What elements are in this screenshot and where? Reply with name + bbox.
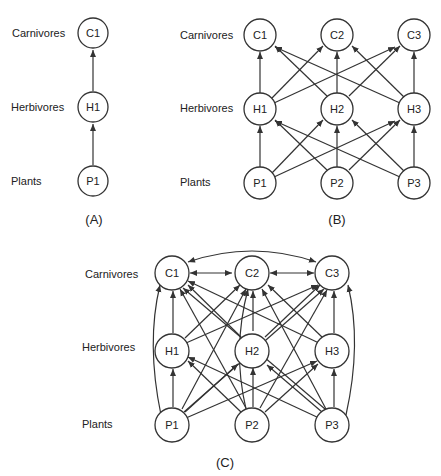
svg-text:P3: P3 [325,419,338,431]
node-p3: P3 [315,408,349,442]
level-label-carnivores: Carnivores [85,268,139,280]
caption-a: (A) [85,212,102,227]
panel-b: Carnivores Herbivores Plants C1 C2 C3 H1… [180,19,430,227]
level-label-herbivores: Herbivores [11,101,65,113]
svg-text:H2: H2 [245,345,259,357]
svg-text:P3: P3 [407,177,420,189]
panel-c: Carnivores Herbivores Plants [82,251,355,470]
node-p2: P2 [235,408,269,442]
node-h1: H1 [244,93,276,125]
node-p2: P2 [321,167,353,199]
svg-text:C2: C2 [245,267,259,279]
svg-text:P2: P2 [330,177,343,189]
node-p1: P1 [244,167,276,199]
node-h2: H2 [235,334,269,368]
level-label-carnivores: Carnivores [12,27,66,39]
node-h2: H2 [321,93,353,125]
node-c3: C3 [315,256,349,290]
svg-text:H3: H3 [407,103,421,115]
svg-text:P1: P1 [253,177,266,189]
node-p1: P1 [78,166,108,196]
svg-text:P2: P2 [245,419,258,431]
svg-text:H2: H2 [330,103,344,115]
node-h3: H3 [315,334,349,368]
node-p1: P1 [155,408,189,442]
svg-text:H1: H1 [165,345,179,357]
caption-b: (B) [328,212,345,227]
svg-text:P1: P1 [86,175,99,187]
svg-text:C1: C1 [86,27,100,39]
level-label-herbivores: Herbivores [82,341,136,353]
node-c2: C2 [235,256,269,290]
food-web-diagram: Carnivores Herbivores Plants C1 H1 P1 (A… [0,0,441,476]
svg-text:H3: H3 [325,345,339,357]
node-h1: H1 [155,334,189,368]
caption-c: (C) [216,455,234,470]
node-h3: H3 [398,93,430,125]
svg-text:H1: H1 [86,101,100,113]
node-c3: C3 [398,19,430,51]
level-label-plants: Plants [11,175,42,187]
level-label-plants: Plants [82,418,113,430]
node-h1: H1 [78,92,108,122]
svg-text:C1: C1 [165,267,179,279]
node-p3: P3 [398,167,430,199]
level-label-carnivores: Carnivores [180,29,234,41]
node-c1: C1 [155,256,189,290]
level-label-herbivores: Herbivores [180,102,234,114]
node-c1: C1 [244,19,276,51]
svg-text:C1: C1 [253,29,267,41]
svg-text:H1: H1 [253,103,267,115]
svg-text:P1: P1 [165,419,178,431]
node-c1: C1 [78,18,108,48]
level-label-plants: Plants [180,176,211,188]
panel-a: Carnivores Herbivores Plants C1 H1 P1 (A… [11,18,108,227]
svg-text:C3: C3 [325,267,339,279]
node-c2: C2 [321,19,353,51]
svg-text:C2: C2 [330,29,344,41]
svg-text:C3: C3 [407,29,421,41]
